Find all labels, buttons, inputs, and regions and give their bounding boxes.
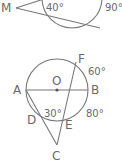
label-d: D xyxy=(27,113,36,127)
label-o: O xyxy=(52,74,61,88)
label-e: E xyxy=(65,118,73,132)
center-dot xyxy=(55,88,58,91)
angle-label-60: 60° xyxy=(88,66,106,77)
figure-1: M 40° 90° xyxy=(1,0,122,28)
angle-label-40: 40° xyxy=(46,2,64,13)
angle-label-90: 90° xyxy=(105,2,122,13)
label-b: B xyxy=(91,83,99,97)
angle-label-30: 30° xyxy=(44,108,62,119)
label-m: M xyxy=(1,1,11,15)
secant-upper xyxy=(16,0,44,8)
label-c: C xyxy=(52,149,60,163)
figure-2: O A B F D E C 30° 60° 80° xyxy=(13,52,106,163)
label-f: F xyxy=(78,52,85,66)
label-a: A xyxy=(13,83,22,97)
geometry-diagram: M 40° 90° O A B F D E C 30° 60° 80° xyxy=(0,0,122,163)
angle-label-80: 80° xyxy=(86,108,104,119)
